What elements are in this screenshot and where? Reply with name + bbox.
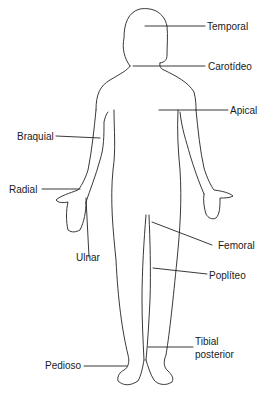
leader-femoral	[152, 222, 212, 245]
left-arm-inner	[86, 112, 108, 202]
right-torso	[146, 110, 181, 384]
left-torso	[112, 110, 144, 385]
label-braquial: Braquial	[17, 131, 54, 142]
label-ulnar: Ulnar	[76, 252, 100, 263]
head-outline	[123, 9, 167, 66]
left-arm-outer	[56, 110, 96, 232]
label-pedioso: Pedioso	[45, 360, 81, 371]
label-carotideo: Carotídeo	[208, 61, 252, 72]
label-temporal: Temporal	[207, 21, 248, 32]
inner-leg-right	[146, 215, 150, 360]
inner-leg-left	[142, 215, 146, 360]
body-outline	[0, 0, 267, 395]
label-tibial-2: posterior	[195, 349, 234, 360]
right-shoulder-outline	[160, 63, 196, 110]
right-arm-inner	[180, 112, 204, 194]
leader-ulnar	[86, 198, 89, 257]
label-tibial-1: Tibial	[195, 336, 219, 347]
label-apical: Apical	[230, 105, 257, 116]
label-radial: Radial	[9, 184, 37, 195]
leader-popliteo	[153, 268, 207, 274]
right-arm-outer	[196, 110, 233, 219]
label-popliteo: Poplíteo	[209, 270, 246, 281]
left-shoulder-outline	[96, 66, 130, 110]
label-femoral: Femoral	[218, 240, 255, 251]
